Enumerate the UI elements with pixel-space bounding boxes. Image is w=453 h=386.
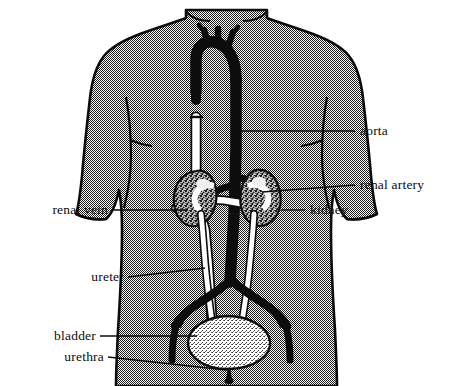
label-renal-vein: renal vein <box>22 203 108 217</box>
bladder <box>188 316 270 369</box>
label-kidney: kidney <box>310 203 348 217</box>
anatomical-figure: aorta renal artery kidney renal vein ure… <box>0 0 453 386</box>
label-aorta: aorta <box>360 124 388 138</box>
kidney-right <box>240 170 280 226</box>
label-urethra: urethra <box>42 350 104 364</box>
label-ureter: ureter <box>60 270 124 284</box>
label-renal-artery: renal artery <box>360 178 424 192</box>
kidney-left <box>174 171 217 227</box>
label-bladder: bladder <box>34 329 96 343</box>
